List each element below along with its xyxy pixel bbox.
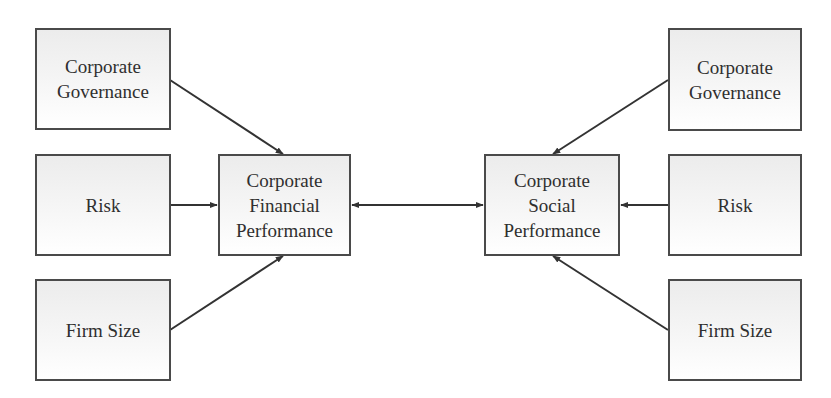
right-governance-box: Corporate Governance	[668, 28, 802, 131]
left-governance-box: Corporate Governance	[35, 28, 171, 130]
right-firm-size-box: Firm Size	[668, 279, 802, 381]
left-governance-label: Corporate Governance	[57, 54, 149, 104]
corporate-social-performance-box: Corporate Social Performance	[484, 154, 620, 256]
csp-label: Corporate Social Performance	[503, 168, 600, 243]
arrow-size-to-cfp	[170, 256, 283, 330]
left-firm-size-box: Firm Size	[35, 279, 171, 381]
right-risk-box: Risk	[668, 154, 802, 256]
left-risk-box: Risk	[35, 154, 171, 256]
diagram-canvas: Corporate Governance Risk Firm Size Corp…	[0, 0, 831, 398]
arrow-size-to-csp	[553, 256, 668, 330]
left-risk-label: Risk	[86, 193, 121, 218]
left-firm-size-label: Firm Size	[66, 318, 140, 343]
right-governance-label: Corporate Governance	[689, 55, 781, 105]
corporate-financial-performance-box: Corporate Financial Performance	[218, 154, 351, 256]
arrow-governance-to-cfp	[170, 80, 283, 154]
right-risk-label: Risk	[718, 193, 753, 218]
cfp-label: Corporate Financial Performance	[236, 168, 333, 243]
arrow-governance-to-csp	[553, 80, 668, 154]
right-firm-size-label: Firm Size	[698, 318, 772, 343]
